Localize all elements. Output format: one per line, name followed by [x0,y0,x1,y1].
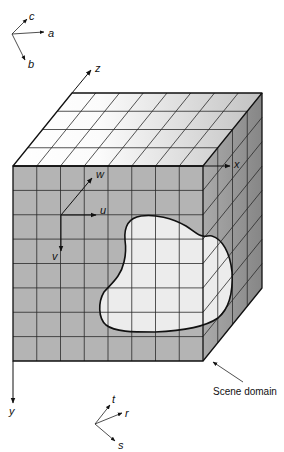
c-axis-label: c [29,10,35,22]
scene-domain-label: Scene domain [213,386,277,397]
voxel-cube-diagram: c a b [0,0,284,452]
x-axis-label: x [233,158,240,170]
w-axis-label: w [96,168,105,180]
z-axis-label: z [94,62,101,74]
callout-arrow-icon [213,362,243,382]
y-axis-label: y [8,405,16,417]
rst-frame: t r s [95,393,130,451]
s-axis-label: s [118,439,124,451]
r-axis-label: r [125,407,130,419]
a-axis-label: a [48,27,54,39]
diagram-canvas: c a b [0,0,284,452]
scene-domain-callout: Scene domain [213,362,277,397]
b-axis-arrow-icon [12,34,25,60]
c-axis-arrow-icon [12,19,27,34]
z-axis-arrow-icon [72,70,91,93]
abc-frame: c a b [12,10,54,70]
s-axis-arrow-icon [95,424,115,441]
b-axis-label: b [28,58,34,70]
t-axis-label: t [112,393,116,405]
cube [13,93,262,361]
u-axis-label: u [100,204,106,216]
a-axis-arrow-icon [12,32,44,34]
